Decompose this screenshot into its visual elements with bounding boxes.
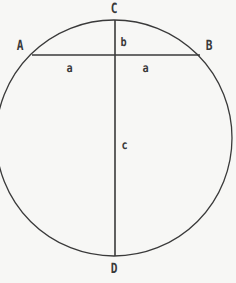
label-point-b: B [206,39,213,53]
label-segment-c: c [122,139,128,151]
geometry-figure-svg [0,0,236,283]
label-point-c: C [111,2,118,16]
label-point-a: A [17,39,24,53]
label-segment-a-left: a [67,62,73,74]
figure-canvas: C A B D b a a c [0,0,236,283]
label-segment-b: b [121,36,127,48]
label-point-d: D [111,262,118,276]
label-segment-a-right: a [143,62,149,74]
